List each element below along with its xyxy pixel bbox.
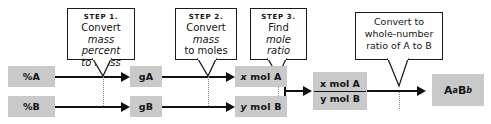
callout-final-line1: Convert to: [360, 16, 438, 28]
callout-step-2-tail: [198, 59, 220, 77]
node-moles-a: x mol A: [235, 66, 287, 87]
arrowhead-percentB-to-gB: [121, 102, 130, 112]
callout-final-line3: ratio of A to B: [360, 40, 438, 52]
callout-final-step: Convert to whole-number ratio of A to B: [355, 12, 443, 60]
ratio-numerator-unit: mol A: [330, 78, 360, 89]
connector-percentB-to-gB: [54, 106, 122, 108]
callout-step-2-label: STEP 2.: [180, 12, 232, 22]
ratio-numerator-var: x: [320, 78, 326, 89]
formula-subscript-b: b: [466, 86, 472, 95]
node-mole-ratio-numerator: x mol A: [314, 78, 366, 92]
callout-step-2-line3: to moles: [180, 45, 232, 57]
callout-step-3-label: STEP 3.: [255, 12, 302, 22]
connector-gA-to-molA: [161, 76, 227, 78]
guide-dotted-step1: [103, 76, 104, 106]
node-moles-b-unit: mol B: [250, 101, 281, 112]
node-moles-b-var: y: [240, 101, 246, 112]
callout-final-line2: whole-number: [360, 28, 438, 40]
callout-step-1-line2: mass percent: [72, 34, 130, 57]
node-grams-b: gB: [130, 96, 162, 117]
node-grams-a: gA: [130, 66, 162, 87]
callout-final-tail: [388, 59, 414, 87]
node-percent-b: %B: [8, 96, 55, 117]
callout-step-3-line2: mole ratio: [255, 34, 302, 57]
ratio-denominator-unit: mol B: [330, 93, 360, 104]
node-grams-a-label: gA: [139, 71, 154, 82]
callout-step-3: STEP 3. Find mole ratio: [250, 8, 307, 60]
formula-element-a: A: [444, 84, 453, 97]
formula-element-b: B: [458, 84, 466, 97]
callout-step-2: STEP 2. Convert mass to moles: [175, 8, 237, 60]
arrowhead-merge-to-ratio: [303, 86, 312, 96]
node-moles-a-unit: mol A: [250, 71, 281, 82]
node-percent-a: %A: [8, 66, 55, 87]
node-moles-a-var: x: [240, 71, 246, 82]
callout-step-2-line2: mass: [180, 34, 232, 46]
node-percent-a-label: %A: [23, 71, 40, 82]
node-empirical-formula: AaBb: [432, 74, 484, 106]
node-percent-b-label: %B: [23, 101, 40, 112]
connector-gB-to-molB: [161, 106, 227, 108]
node-mole-ratio-denominator: y mol B: [314, 92, 366, 105]
guide-dotted-step2: [208, 76, 209, 106]
arrowhead-gA-to-molA: [226, 72, 235, 82]
connector-percentA-to-gA: [54, 76, 122, 78]
callout-step-1: STEP 1. Convert mass percent to mass: [67, 8, 135, 60]
callout-step-3-line1: Find: [255, 22, 302, 34]
arrowhead-gB-to-molB: [226, 102, 235, 112]
arrowhead-ratio-to-formula: [417, 86, 426, 96]
connector-ratio-to-formula: [367, 90, 418, 92]
callout-step-1-line1: Convert: [72, 22, 130, 34]
callout-step-2-line1: Convert: [180, 22, 232, 34]
arrowhead-percentA-to-gA: [121, 72, 130, 82]
node-grams-b-label: gB: [139, 101, 153, 112]
callout-step-1-tail: [93, 59, 115, 77]
node-moles-b: y mol B: [235, 96, 287, 117]
merge-line-out: [284, 90, 304, 92]
flowchart-diagram: STEP 1. Convert mass percent to mass STE…: [0, 0, 491, 124]
ratio-denominator-var: y: [320, 93, 326, 104]
callout-step-1-label: STEP 1.: [72, 12, 130, 22]
guide-dotted-final: [399, 91, 400, 109]
node-mole-ratio: x mol A y mol B: [313, 72, 367, 110]
